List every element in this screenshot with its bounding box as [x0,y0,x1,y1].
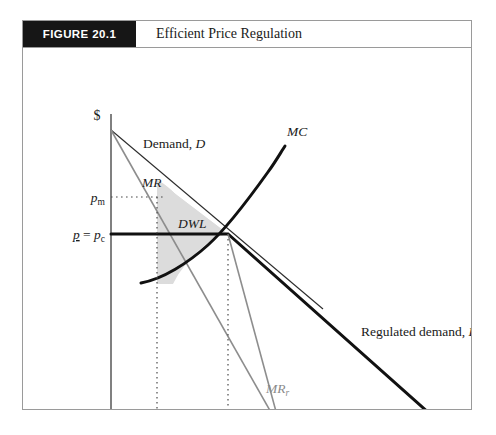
y-tick-pm-subscript: m [98,197,106,207]
mrr-label-base: MR [265,381,286,396]
economics-diagram-svg: $ Demand, D MR MC DWL MRr Regulated dema… [23,48,471,409]
y-tick-label-pm: pm [90,190,106,207]
y-tick-label-pc: p = pc [72,227,105,244]
mc-label: MC [286,124,308,139]
chart-plot-area: $ Demand, D MR MC DWL MRr Regulated dema… [23,48,471,409]
marginal-revenue-curve [111,130,281,409]
dwl-label: DWL [177,216,207,231]
mr-label: MR [141,175,162,190]
demand-label-symbol: D [194,136,205,151]
y-tick-pc-subscript: c [101,234,105,244]
figure-number-badge: FIGURE 20.1 [23,21,136,47]
demand-label-text: Demand, [143,136,195,151]
figure-title: Efficient Price Regulation [136,21,471,47]
figure-container: FIGURE 20.1 Efficient Price Regulation [22,20,472,410]
mrr-label: MRr [265,381,290,398]
mrr-label-subscript: r [286,388,290,398]
figure-header: FIGURE 20.1 Efficient Price Regulation [23,21,471,48]
regulated-demand-label: Regulated demand, Dr [361,324,471,341]
demand-label: Demand, D [143,136,205,151]
y-tick-pc-equals: = [80,227,94,242]
y-axis-label-dollar: $ [94,108,101,123]
regulated-demand-label-symbol: D [468,324,471,339]
regulated-demand-label-text: Regulated demand, [361,324,469,339]
